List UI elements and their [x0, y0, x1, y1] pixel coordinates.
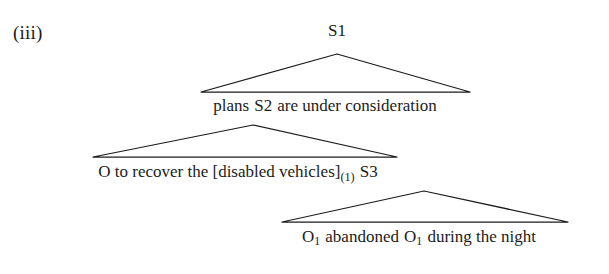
syntax-tree-figure: (iii) S1 plansS2are under consideration … [0, 0, 609, 274]
example-number-label: (iii) [13, 23, 43, 42]
tier-4-second-object: O [404, 227, 416, 246]
tier-3-lead: O to recover the [disabled vehicles] [98, 162, 340, 181]
tier-4-verb: abandoned [325, 227, 399, 246]
tier-2-text: plansS2are under consideration [213, 97, 437, 114]
triangle-s3 [282, 191, 568, 222]
triangle-s1 [201, 54, 470, 92]
tier-4-text: O1abandonedO1during the night [302, 228, 536, 245]
tier-2-after-tag: are under consideration [277, 96, 437, 115]
node-label-s1: S1 [328, 22, 346, 39]
tier-4-first-object-subscript: 1 [314, 234, 320, 248]
tier-4-tail: during the night [427, 227, 536, 246]
tier-3-subscript: (1) [340, 170, 354, 184]
tier-4-second-object-subscript: 1 [416, 234, 422, 248]
node-label-s2: S2 [254, 96, 272, 115]
node-label-s3: S3 [360, 162, 378, 181]
triangle-s2 [93, 125, 397, 157]
tier-3-text: O to recover the [disabled vehicles](1)S… [98, 163, 377, 180]
tier-4-first-object: O [302, 227, 314, 246]
tier-2-before-tag: plans [213, 96, 249, 115]
